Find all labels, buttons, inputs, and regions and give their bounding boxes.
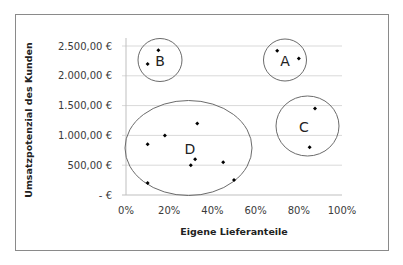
y-tick-labels: - €500,00 €1.000,00 €1.500,00 €2.000,00 … (58, 41, 112, 201)
y-tick-label: 1.000,00 € (58, 130, 112, 141)
y-tick-label: 2.500,00 € (58, 41, 112, 52)
data-point (221, 160, 225, 164)
x-axis-title: Eigene Lieferanteile (180, 226, 288, 237)
x-tick-label: 20% (158, 205, 180, 216)
data-point (297, 57, 301, 61)
y-tick-label: 1.500,00 € (58, 100, 112, 111)
cluster-label-c: C (299, 119, 309, 135)
cluster-label-d: D (185, 141, 196, 157)
data-point (146, 62, 150, 66)
data-point (308, 145, 312, 149)
y-tick-label: - € (99, 190, 112, 201)
data-point (193, 157, 197, 161)
y-tick-label: 2.000,00 € (58, 70, 112, 81)
point-layer (146, 48, 317, 185)
y-tick-label: 500,00 € (67, 160, 112, 171)
data-point (189, 163, 193, 167)
data-point (275, 49, 279, 53)
y-axis-title: Umsatzpotenzial des Kunden (23, 42, 34, 198)
x-tick-label: 80% (288, 205, 310, 216)
data-point (163, 133, 167, 137)
x-tick-label: 0% (118, 205, 134, 216)
x-tick-label: 60% (244, 205, 266, 216)
cluster-layer: ABCD (125, 39, 339, 196)
scatter-chart: - €500,00 €1.000,00 €1.500,00 €2.000,00 … (0, 0, 403, 265)
data-point (232, 178, 236, 182)
data-point (156, 48, 160, 52)
cluster-label-b: B (155, 53, 165, 69)
x-tick-label: 100% (328, 205, 357, 216)
data-point (195, 121, 199, 125)
x-tick-label: 40% (201, 205, 223, 216)
cluster-label-a: A (280, 53, 290, 69)
data-point (313, 107, 317, 111)
data-point (146, 181, 150, 185)
data-point (146, 142, 150, 146)
x-tick-labels: 0%20%40%60%80%100% (118, 205, 356, 216)
